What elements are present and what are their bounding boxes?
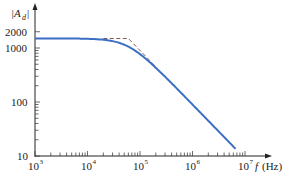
svg-text:6: 6 — [197, 158, 201, 166]
svg-text:10: 10 — [81, 160, 93, 172]
y-tick-label-100: 100 — [11, 96, 28, 108]
y-tick-label-1000: 1000 — [5, 42, 28, 54]
svg-text:10: 10 — [28, 160, 40, 172]
y-axis-arrow-icon — [33, 3, 38, 10]
svg-text:3: 3 — [40, 158, 44, 166]
svg-text:10: 10 — [133, 160, 145, 172]
x-tick-label-1e4: 10 4 — [81, 158, 97, 172]
svg-text:10: 10 — [185, 160, 197, 172]
asymptote-dashed-line — [103, 39, 156, 67]
svg-text:10: 10 — [238, 160, 250, 172]
x-axis-title: f (Hz) — [255, 160, 282, 173]
svg-text:4: 4 — [93, 158, 97, 166]
x-axis-arrow-icon — [265, 154, 272, 159]
x-tick-label-1e5: 10 5 — [133, 158, 149, 172]
svg-text:7: 7 — [250, 158, 254, 166]
x-tick-label-1e7: 10 7 — [238, 158, 254, 172]
x-tick-label-1e6: 10 6 — [185, 158, 201, 172]
svg-text:|A: |A — [11, 7, 21, 19]
bode-magnitude-chart: 2000 1000 100 10 10 3 10 4 10 5 10 6 10 … — [0, 0, 289, 177]
x-ticks — [35, 151, 245, 156]
svg-text:f: f — [255, 160, 260, 172]
svg-text:|: | — [27, 7, 29, 19]
svg-text:5: 5 — [145, 158, 149, 166]
svg-text:(Hz): (Hz) — [262, 160, 282, 173]
response-curve — [35, 39, 236, 149]
y-axis-title: |A d | — [11, 7, 29, 22]
x-tick-label-1e3: 10 3 — [28, 158, 44, 172]
y-tick-label-2000: 2000 — [5, 26, 28, 38]
y-ticks — [35, 32, 40, 156]
y-tick-label-10: 10 — [17, 150, 29, 162]
